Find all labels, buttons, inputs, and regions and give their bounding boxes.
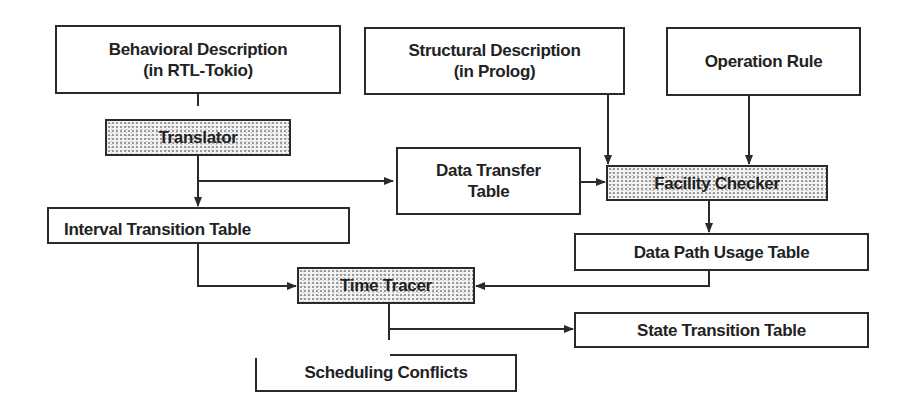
interval-transition-table-box: Interval Transition Table <box>47 207 350 244</box>
interval-transition-table-label: Interval Transition Table <box>64 219 251 240</box>
behavioral-description-box: Behavioral Description (in RTL-Tokio) <box>55 25 341 94</box>
scheduling-conflicts-label: Scheduling Conflicts <box>304 363 467 383</box>
facility-checker-label: Facility Checker <box>654 173 780 194</box>
scheduling-conflicts-box: Scheduling Conflicts <box>258 356 514 390</box>
translator-box: Translator <box>105 119 291 156</box>
operation-rule-label: Operation Rule <box>705 51 823 72</box>
translator-label: Translator <box>158 127 237 148</box>
edge-datapath-timetracer <box>476 270 709 286</box>
structural-description-label: Structural Description (in Prolog) <box>409 40 581 82</box>
time-tracer-box: Time Tracer <box>297 267 475 304</box>
state-transition-table-label: State Transition Table <box>637 320 806 341</box>
edge-interval-timetracer <box>198 243 296 286</box>
data-path-usage-table-label: Data Path Usage Table <box>634 242 810 263</box>
data-transfer-table-label: Data Transfer Table <box>436 160 541 202</box>
data-path-usage-table-box: Data Path Usage Table <box>574 233 869 271</box>
facility-checker-box: Facility Checker <box>606 165 828 201</box>
structural-description-box: Structural Description (in Prolog) <box>364 27 625 95</box>
state-transition-table-box: State Transition Table <box>574 312 869 348</box>
data-transfer-table-box: Data Transfer Table <box>396 147 581 215</box>
operation-rule-box: Operation Rule <box>666 27 861 96</box>
time-tracer-label: Time Tracer <box>340 275 432 296</box>
behavioral-description-label: Behavioral Description (in RTL-Tokio) <box>109 39 288 81</box>
